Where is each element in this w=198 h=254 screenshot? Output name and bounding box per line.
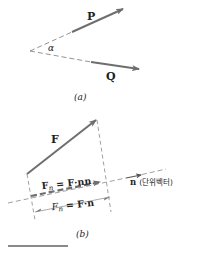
vector-p-label: P <box>87 10 95 23</box>
vector-p-arrow <box>72 9 123 32</box>
vector-q-dashed-extension <box>30 51 91 62</box>
unit-vector-label: n(단위벡터) <box>130 177 173 187</box>
projection-scalar-label: Fn = F·n <box>50 197 95 215</box>
projection-scalar-equation: = F·n <box>62 197 95 211</box>
figure-a: P Q α (a) <box>30 9 139 102</box>
unit-vector-note: (단위벡터) <box>139 177 173 187</box>
svg-text:Fn = F·n: Fn = F·n <box>50 197 95 215</box>
vector-q-label: Q <box>106 70 116 83</box>
projection-vector-equation: = F·nn <box>52 175 91 190</box>
dimension-arrow-left-icon <box>35 209 41 213</box>
footnote-rule <box>8 245 68 247</box>
vector-q-arrow <box>91 62 139 69</box>
unit-vector-symbol: n <box>130 177 136 187</box>
vector-diagram: P Q α (a) F Fn = F·nn Fn = F·n <box>0 0 198 254</box>
perpendicular-from-f-base <box>27 174 35 220</box>
figure-b: F Fn = F·nn Fn = F·n n(단위벡터) (b) <box>8 120 173 239</box>
vector-f-arrow <box>27 120 96 174</box>
n-axis-dashed-tail <box>142 169 166 175</box>
angle-alpha-label: α <box>48 43 54 53</box>
caption-b: (b) <box>76 229 89 239</box>
vector-f-label: F <box>51 133 59 146</box>
caption-a: (a) <box>74 92 87 102</box>
